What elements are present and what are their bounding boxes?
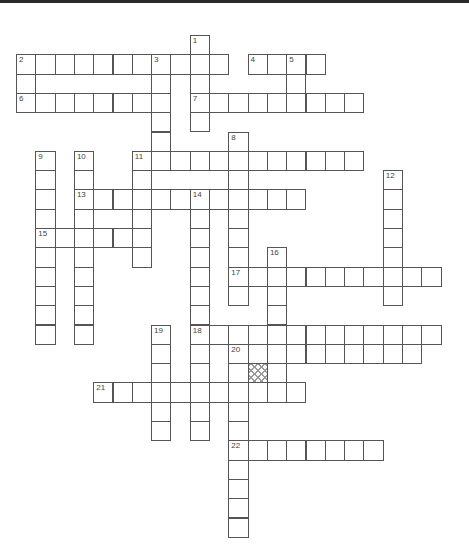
grid-cell[interactable] [93,54,113,74]
grid-cell[interactable] [267,151,287,171]
grid-cell[interactable] [325,344,345,364]
grid-cell[interactable] [383,344,403,364]
grid-cell[interactable]: 17 [228,267,248,287]
grid-cell[interactable] [383,247,403,267]
grid-cell[interactable]: 22 [228,440,248,460]
grid-cell[interactable] [402,325,422,345]
grid-cell[interactable] [132,189,152,209]
grid-cell[interactable] [151,151,171,171]
grid-cell[interactable] [35,170,55,190]
grid-cell[interactable] [383,267,403,287]
grid-cell[interactable] [286,151,306,171]
grid-cell[interactable]: 9 [35,151,55,171]
grid-cell[interactable] [170,54,190,74]
grid-cell[interactable] [363,344,383,364]
grid-cell[interactable] [74,54,94,74]
grid-cell[interactable] [74,228,94,248]
grid-cell[interactable] [267,325,287,345]
grid-cell[interactable]: 13 [74,189,94,209]
grid-cell[interactable] [132,228,152,248]
grid-cell[interactable]: 6 [16,93,36,113]
grid-cell[interactable] [74,286,94,306]
grid-cell[interactable] [55,54,75,74]
grid-cell[interactable] [344,93,364,113]
grid-cell[interactable] [267,382,287,402]
grid-cell[interactable] [16,74,36,94]
grid-cell[interactable] [228,247,248,267]
grid-cell[interactable] [228,421,248,441]
grid-cell[interactable] [151,112,171,132]
grid-cell[interactable] [132,93,152,113]
grid-cell[interactable] [306,54,326,74]
grid-cell[interactable]: 20 [228,344,248,364]
grid-cell[interactable] [151,74,171,94]
grid-cell[interactable] [170,189,190,209]
grid-cell[interactable] [228,325,248,345]
grid-cell[interactable]: 3 [151,54,171,74]
grid-cell[interactable] [286,344,306,364]
grid-cell[interactable] [402,267,422,287]
grid-cell[interactable] [228,518,248,538]
grid-cell[interactable] [93,189,113,209]
grid-cell[interactable] [209,382,229,402]
grid-cell[interactable] [248,267,268,287]
grid-cell[interactable] [286,325,306,345]
grid-cell[interactable] [35,305,55,325]
grid-cell[interactable] [35,209,55,229]
grid-cell[interactable] [35,267,55,287]
grid-cell[interactable]: 18 [190,325,210,345]
grid-cell[interactable] [267,344,287,364]
grid-cell[interactable] [421,325,441,345]
grid-cell[interactable] [306,151,326,171]
grid-cell[interactable] [286,267,306,287]
grid-cell[interactable]: 8 [228,132,248,152]
grid-cell[interactable] [74,209,94,229]
grid-cell[interactable] [325,440,345,460]
grid-cell[interactable] [35,54,55,74]
grid-cell[interactable] [325,151,345,171]
grid-cell[interactable] [383,209,403,229]
grid-cell[interactable]: 12 [383,170,403,190]
grid-cell[interactable] [113,382,133,402]
grid-cell[interactable] [190,74,210,94]
grid-cell[interactable] [248,440,268,460]
grid-cell[interactable] [286,382,306,402]
grid-cell[interactable] [35,325,55,345]
grid-cell[interactable] [325,93,345,113]
grid-cell[interactable] [35,93,55,113]
grid-cell[interactable] [344,325,364,345]
grid-cell[interactable] [132,382,152,402]
grid-cell[interactable] [306,93,326,113]
grid-cell[interactable] [151,132,171,152]
grid-cell[interactable] [132,209,152,229]
grid-cell[interactable]: 19 [151,325,171,345]
grid-cell[interactable] [228,498,248,518]
grid-cell[interactable] [306,440,326,460]
grid-cell[interactable] [113,189,133,209]
grid-cell[interactable] [267,440,287,460]
grid-cell[interactable] [267,363,287,383]
grid-cell[interactable] [228,286,248,306]
grid-cell[interactable] [383,189,403,209]
grid-cell[interactable] [190,305,210,325]
grid-cell[interactable] [74,305,94,325]
grid-cell[interactable] [306,267,326,287]
grid-cell[interactable] [286,74,306,94]
grid-cell[interactable] [248,344,268,364]
grid-cell[interactable] [267,305,287,325]
grid-cell[interactable] [228,170,248,190]
grid-cell[interactable] [267,93,287,113]
grid-cell[interactable] [267,286,287,306]
grid-cell[interactable] [344,151,364,171]
grid-cell[interactable] [74,170,94,190]
grid-cell[interactable] [190,421,210,441]
grid-cell[interactable] [190,402,210,422]
grid-cell[interactable] [209,151,229,171]
grid-cell[interactable] [170,151,190,171]
grid-cell[interactable] [248,189,268,209]
grid-cell[interactable] [190,54,210,74]
grid-cell[interactable] [55,93,75,113]
grid-cell[interactable]: 11 [132,151,152,171]
grid-cell[interactable] [190,267,210,287]
grid-cell[interactable] [402,344,422,364]
